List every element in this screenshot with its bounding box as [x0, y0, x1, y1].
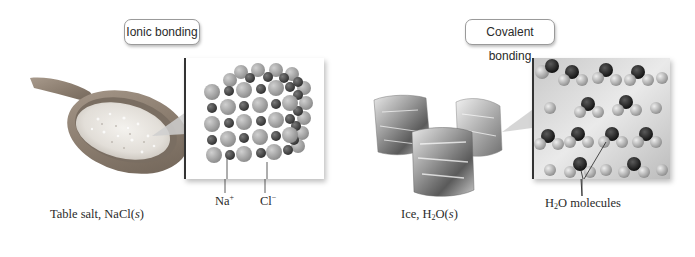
- covalent-callout-wedge: [500, 108, 534, 138]
- water-molecule-lattice: [532, 58, 670, 179]
- nacl-crystal-lattice: [184, 58, 324, 179]
- cl-ion-label: Cl−: [260, 193, 276, 209]
- na-ion-label: Na+: [215, 193, 234, 209]
- ice-cubes-image: [368, 92, 508, 198]
- table-salt-caption: Table salt, NaCl(s): [50, 207, 144, 222]
- ionic-bonding-label-text: Ionic bonding: [126, 25, 197, 39]
- ion-leader-lines: [184, 179, 322, 195]
- covalent-bonding-label: Covalent bonding: [465, 19, 555, 45]
- ionic-bonding-label: Ionic bonding: [124, 19, 200, 45]
- covalent-bonding-label-text: Covalent bonding: [486, 25, 533, 63]
- h2o-molecules-label: H2O molecules: [545, 196, 621, 211]
- ice-caption: Ice, H2O(s): [401, 207, 458, 222]
